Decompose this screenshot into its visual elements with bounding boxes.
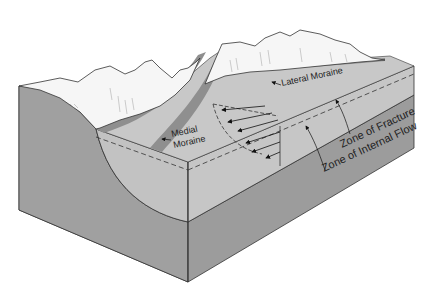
glacier-diagram: Lateral Moraine Medial Moraine Zone of F…: [0, 0, 426, 290]
